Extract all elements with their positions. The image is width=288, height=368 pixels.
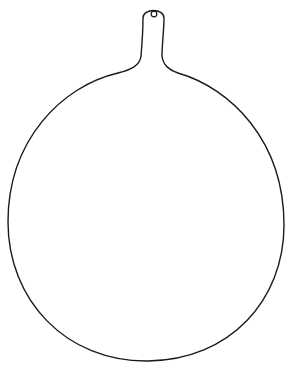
hang-hole xyxy=(151,11,157,17)
board-outline xyxy=(8,11,284,362)
drawing-canvas: round paddle board with handle outline xyxy=(0,0,288,368)
paddle-board-outline xyxy=(0,0,288,368)
